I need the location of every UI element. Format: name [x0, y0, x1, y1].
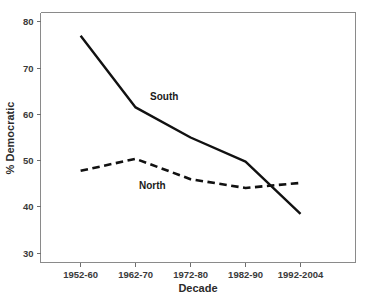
y-tick-label: 40: [23, 201, 34, 212]
y-tick-label: 80: [23, 16, 34, 27]
y-tick-label: 30: [23, 248, 34, 259]
x-tick-label: 1952-60: [63, 269, 98, 280]
x-tick-label: 1962-70: [118, 269, 153, 280]
x-tick-label: 1982-90: [228, 269, 263, 280]
series-annotation-south: South: [150, 91, 178, 102]
x-axis-title: Decade: [178, 282, 217, 294]
y-axis-title: % Democratic: [4, 102, 16, 175]
y-tick-label: 50: [23, 155, 34, 166]
y-tick-label: 70: [23, 63, 34, 74]
y-tick-label: 60: [23, 109, 34, 120]
chart-container: 304050607080 1952-601962-701972-801982-9…: [0, 0, 366, 301]
x-tick-label: 1972-80: [173, 269, 208, 280]
chart-background: [0, 0, 366, 301]
x-tick-label: 1992-2004: [278, 269, 324, 280]
series-annotation-north: North: [139, 180, 166, 191]
line-chart: 304050607080 1952-601962-701972-801982-9…: [0, 0, 366, 301]
